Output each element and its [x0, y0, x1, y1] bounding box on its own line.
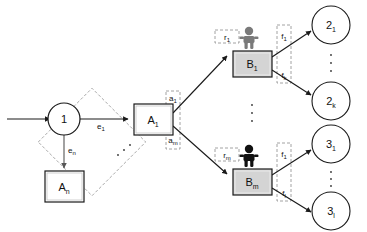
node-result-2-k-sub: k [332, 102, 336, 109]
person-icon-black [240, 145, 259, 167]
edge-label-f-bottom-first: f1 [281, 150, 287, 160]
node-source-circle: 1 [48, 103, 80, 135]
node-result-2-1: 21 [312, 6, 350, 44]
edge-Bm-to-3-1 [272, 150, 311, 175]
node-task-An-sub: n [66, 188, 70, 195]
edge-label-a-last: am [168, 136, 177, 146]
node-agent-B1: B1 [233, 51, 272, 77]
person-icon-gray [240, 27, 259, 49]
edge-A1-to-Bm [173, 126, 227, 174]
node-result-2-k: 2k [312, 82, 350, 120]
ellipsis-between-agents [251, 104, 253, 122]
ellipsis-between-results-bottom [330, 171, 332, 187]
edge-label-e-first: e1 [97, 122, 105, 132]
node-agent-Bm-sub: m [253, 183, 259, 190]
node-task-A1: A1 [134, 104, 173, 135]
edge-label-e-last: en [68, 146, 76, 156]
edge-label-f-top-first: f1 [281, 32, 287, 42]
edge-label-r-first: r1 [224, 33, 231, 43]
node-agent-Bm-label: B [245, 176, 252, 188]
edge-A1-to-B1 [173, 56, 227, 113]
ellipsis-between-e-edges [117, 144, 131, 156]
node-result-3-1: 31 [312, 125, 350, 163]
edge-B1-to-2-k [272, 70, 311, 95]
node-result-3-1-sub: 1 [332, 145, 336, 152]
node-agent-B1-sub: 1 [254, 65, 258, 72]
edge-label-r-last: rm [223, 151, 231, 161]
ellipsis-between-results-top [330, 54, 332, 72]
edge-label-a-first: a1 [169, 94, 177, 104]
edge-B1-to-2-1 [272, 31, 311, 57]
node-result-2-1-sub: 1 [332, 26, 336, 33]
diagram-canvas: 1 A1 An B1 [0, 0, 367, 232]
node-task-A1-sub: 1 [155, 121, 159, 128]
node-result-3-l: 3l [312, 192, 350, 230]
edge-label-f-bottom-last: fl [282, 189, 286, 199]
edge-Bm-to-3-l [272, 188, 311, 212]
node-agent-B1-label: B [246, 58, 253, 70]
node-task-An: An [45, 171, 84, 202]
node-agent-Bm: Bm [233, 169, 272, 195]
diagram-svg: 1 A1 An B1 [0, 0, 367, 232]
node-source-circle-label: 1 [61, 113, 67, 125]
